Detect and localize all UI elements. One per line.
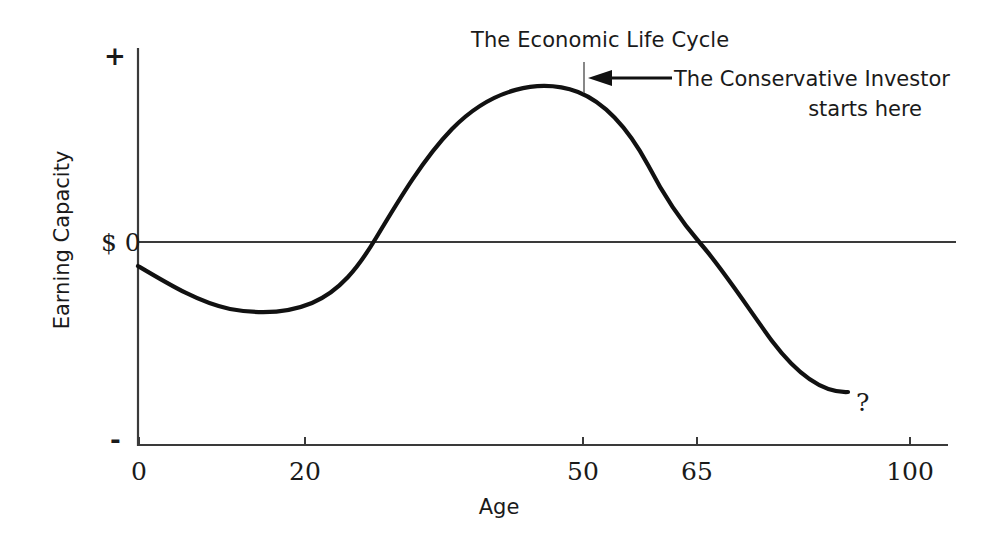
x-tick-label-20: 20 [289,457,321,486]
x-axis-ticks [139,437,910,445]
curve-end-question-mark: ? [856,388,869,417]
y-axis-zero-label: $ 0 [101,228,141,257]
x-tick-label-100: 100 [886,457,934,486]
y-axis-title: Earning Capacity [50,151,74,330]
y-axis-negative-marker: - [110,424,121,454]
earning-capacity-curve [138,86,848,392]
callout-arrow [588,70,672,86]
chart-title: The Economic Life Cycle [471,28,729,52]
x-axis-title: Age [479,495,520,519]
x-tick-label-65: 65 [681,457,713,486]
x-tick-label-50: 50 [567,457,599,486]
economic-life-cycle-chart: The Economic Life Cycle The Conservative… [0,0,998,545]
x-tick-label-0: 0 [131,457,147,486]
y-axis-positive-marker: + [104,41,126,71]
peak-annotation: The Conservative Investor starts here [674,64,922,124]
peak-annotation-line-1: The Conservative Investor [674,64,922,94]
peak-annotation-line-2: starts here [674,94,922,124]
